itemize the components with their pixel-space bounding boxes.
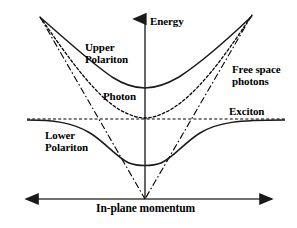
- upper-polariton-label: Upper Polariton: [85, 42, 128, 65]
- photon-curve: [40, 15, 252, 118]
- free-space-photons-label: Free space photons: [232, 64, 281, 87]
- exciton-label: Exciton: [229, 106, 264, 118]
- x-axis-label: In-plane momentum: [96, 203, 195, 215]
- upper-polariton-curve: [41, 16, 252, 88]
- polariton-dispersion-figure: Energy Upper Polariton Free space photon…: [0, 0, 297, 228]
- photon-label: Photon: [103, 91, 136, 103]
- y-axis-label: Energy: [150, 16, 184, 28]
- lower-polariton-label: Lower Polariton: [45, 130, 88, 153]
